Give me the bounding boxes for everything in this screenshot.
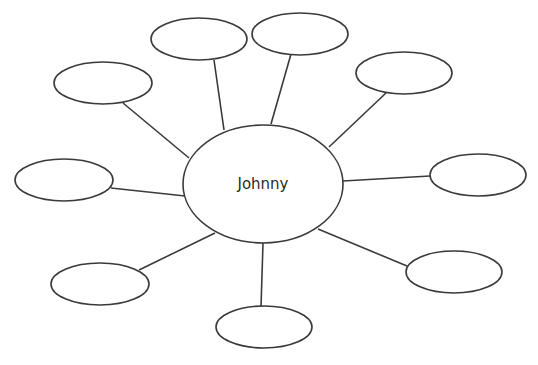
bubble-ellipse[interactable] (252, 13, 348, 55)
bubble-ellipse[interactable] (51, 263, 149, 305)
bubble-left[interactable] (15, 159, 113, 201)
connector-right (343, 176, 430, 181)
bubble-ellipse[interactable] (15, 159, 113, 201)
bubble-lower-left[interactable] (51, 263, 149, 305)
bubble-ellipse[interactable] (430, 154, 526, 196)
center-node[interactable]: Johnny (183, 125, 343, 243)
connector-left (111, 188, 185, 196)
bubble-upper-right[interactable] (356, 52, 452, 94)
bubble-map-diagram: Johnny (0, 0, 538, 365)
connector-top-center-right (271, 54, 291, 124)
bubble-ellipse[interactable] (151, 18, 247, 60)
bubble-bottom[interactable] (216, 306, 312, 348)
bubble-ellipse[interactable] (406, 251, 502, 293)
connector-bottom (261, 243, 263, 307)
connector-upper-right (329, 93, 386, 147)
connector-lower-left (139, 233, 215, 270)
bubble-ellipse[interactable] (356, 52, 452, 94)
bubble-top-center-left[interactable] (151, 18, 247, 60)
center-label: Johnny (237, 175, 289, 193)
bubble-lower-right[interactable] (406, 251, 502, 293)
bubble-ellipse[interactable] (54, 62, 152, 104)
connector-top-center-left (214, 60, 224, 130)
connector-top-left (123, 103, 189, 158)
bubble-right[interactable] (430, 154, 526, 196)
bubble-top-left[interactable] (54, 62, 152, 104)
bubble-ellipse[interactable] (216, 306, 312, 348)
bubble-top-center-right[interactable] (252, 13, 348, 55)
connector-lower-right (318, 229, 407, 266)
